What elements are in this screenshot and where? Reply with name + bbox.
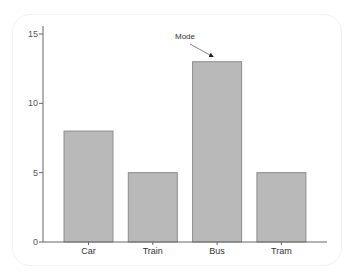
x-tick-label: Tram — [271, 246, 292, 256]
x-tick-label: Bus — [209, 246, 225, 256]
bar-car — [64, 131, 113, 242]
bar-bus — [193, 62, 242, 242]
y-tick-label: 5 — [33, 168, 38, 178]
x-tick-label: Car — [81, 246, 96, 256]
bars-group — [64, 62, 306, 242]
y-tick-label: 10 — [28, 98, 38, 108]
y-tick-label: 0 — [33, 237, 38, 247]
bar-tram — [257, 173, 306, 242]
annotation-arrow — [190, 44, 213, 57]
bar-train — [128, 173, 177, 242]
annotation-label: Mode — [175, 32, 196, 41]
y-tick-label: 15 — [28, 29, 38, 39]
annotations-group: Mode — [175, 32, 213, 57]
bar-chart: CarTrainBusTram051015 Mode — [0, 0, 354, 279]
x-tick-label: Train — [143, 246, 163, 256]
